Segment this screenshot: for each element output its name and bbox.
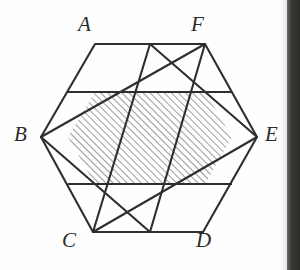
vertex-label-C: C	[62, 230, 76, 251]
vertex-label-E: E	[265, 124, 278, 145]
vertex-label-B: B	[14, 124, 27, 145]
vertex-label-F: F	[191, 14, 204, 35]
figure-container: A F B E C D	[0, 0, 300, 270]
scan-edge-shadow-band	[287, 0, 300, 270]
vertex-label-D: D	[196, 230, 211, 251]
vertex-label-A: A	[78, 14, 91, 35]
hatched-inner-hexagon-fill	[68, 92, 232, 184]
page-edge-gutter	[279, 0, 287, 270]
geometry-canvas	[0, 0, 300, 270]
